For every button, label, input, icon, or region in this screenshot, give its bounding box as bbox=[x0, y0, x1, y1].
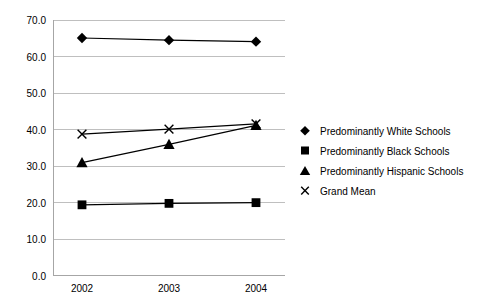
y-axis-tick-labels: 70.0 60.0 50.0 40.0 30.0 20.0 10.0 0.0 bbox=[27, 15, 47, 282]
y-tick-label: 0.0 bbox=[32, 271, 46, 282]
chart-container: 70.0 60.0 50.0 40.0 30.0 20.0 10.0 0.0 2… bbox=[0, 0, 488, 303]
x-marker-icon bbox=[301, 187, 309, 195]
data-point-square bbox=[165, 199, 174, 208]
y-tick-label: 70.0 bbox=[27, 15, 47, 26]
chart-legend: Predominantly White Schools Predominantl… bbox=[300, 126, 464, 197]
data-point-square bbox=[252, 198, 261, 207]
y-tick-label: 40.0 bbox=[27, 125, 47, 136]
y-tick-label: 30.0 bbox=[27, 161, 47, 172]
line-chart: 70.0 60.0 50.0 40.0 30.0 20.0 10.0 0.0 2… bbox=[0, 0, 488, 303]
y-tick-label: 20.0 bbox=[27, 198, 47, 209]
legend-item-hispanic-schools[interactable]: Predominantly Hispanic Schools bbox=[300, 166, 464, 177]
legend-label: Predominantly Black Schools bbox=[320, 146, 450, 157]
legend-label: Grand Mean bbox=[320, 186, 376, 197]
legend-label: Predominantly White Schools bbox=[320, 126, 451, 137]
x-tick-label: 2002 bbox=[71, 283, 94, 294]
x-tick-label: 2004 bbox=[245, 283, 268, 294]
x-axis-tick-labels: 2002 2003 2004 bbox=[71, 283, 268, 294]
legend-item-white-schools[interactable]: Predominantly White Schools bbox=[300, 126, 450, 137]
legend-item-grand-mean[interactable]: Grand Mean bbox=[301, 186, 375, 197]
triangle-marker-icon bbox=[300, 166, 310, 175]
y-tick-label: 50.0 bbox=[27, 88, 47, 99]
y-tick-label: 60.0 bbox=[27, 52, 47, 63]
x-tick-label: 2003 bbox=[158, 283, 181, 294]
square-marker-icon bbox=[301, 147, 309, 155]
legend-label: Predominantly Hispanic Schools bbox=[320, 166, 463, 177]
data-point-square bbox=[78, 200, 87, 209]
y-tick-label: 10.0 bbox=[27, 234, 47, 245]
legend-item-black-schools[interactable]: Predominantly Black Schools bbox=[301, 146, 450, 157]
diamond-marker-icon bbox=[300, 126, 310, 136]
